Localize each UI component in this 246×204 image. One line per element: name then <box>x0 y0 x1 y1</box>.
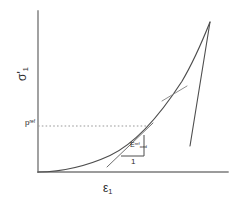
primary-loading-curve <box>38 22 210 172</box>
y-axis-label-subscript: 1 <box>21 67 30 71</box>
plot-canvas <box>0 0 246 204</box>
unloading-reloading-line <box>190 22 210 146</box>
y-axis-label: σ'1 <box>16 54 40 94</box>
y-axis-label-symbol: σ' <box>15 71 29 81</box>
unit-slope-label: 1 <box>131 158 135 166</box>
oedometer-stiffness-label: Erefoed <box>130 141 147 148</box>
reference-pressure-superscript: ref <box>29 119 35 124</box>
oedometer-stiffness-subscript: oed <box>140 144 147 149</box>
stress-strain-figure: σ'1 ε1 pref Erefoed 1 <box>0 0 246 204</box>
x-axis-label-subscript: 1 <box>108 187 112 196</box>
parallel-tangent-marker <box>162 86 187 101</box>
x-axis-label: ε1 <box>103 182 113 194</box>
reference-pressure-label: pref <box>25 119 35 127</box>
